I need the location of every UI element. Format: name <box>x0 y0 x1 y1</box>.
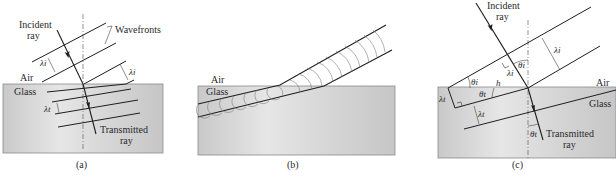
label-ray-a: ray <box>27 30 40 41</box>
label-lambda-t-a: λt <box>43 104 51 114</box>
label-transmitted-c: Transmitted <box>546 128 594 139</box>
panel-b: Air Glass (b) <box>196 25 395 171</box>
theta-i-arc-surface <box>468 77 470 88</box>
label-transmitted-a: Transmitted <box>100 124 148 135</box>
label-glass-c: Glass <box>589 98 611 109</box>
incident-ray-a <box>57 30 83 84</box>
panel-a: Incident ray Wavefronts Air Glass λi λi … <box>3 14 163 171</box>
label-incident-c: Incident <box>487 0 520 11</box>
label-air-c: Air <box>596 77 610 88</box>
lambda-i-dim-a-right <box>120 64 128 80</box>
label-transmitted-ray-a: ray <box>120 135 133 146</box>
label-wavefronts: Wavefronts <box>115 24 161 35</box>
label-lambda-i-a-right: λi <box>128 67 136 77</box>
incident-arrow-a <box>65 51 70 58</box>
wavefront-c-lower <box>528 46 600 88</box>
wavefront-a-4 <box>126 80 134 84</box>
label-lambda-i-c-top: λi <box>553 45 561 55</box>
lambda-i-dim-a <box>48 58 55 72</box>
caption-b: (b) <box>287 159 299 171</box>
label-air-a: Air <box>20 72 34 83</box>
wavefronts-leader <box>105 26 112 44</box>
label-h: h <box>496 78 501 88</box>
label-glass-b: Glass <box>206 86 228 97</box>
label-theta-t-surface: θt <box>479 89 486 99</box>
label-theta-t-bottom: θt <box>530 129 537 139</box>
wavefront-c-upper <box>448 7 591 88</box>
label-transmitted-ray-c: ray <box>563 139 576 150</box>
label-air-b: Air <box>211 74 225 85</box>
label-glass-a: Glass <box>14 86 36 97</box>
label-lambda-t-c-mid: λt <box>477 109 485 119</box>
label-incident-a: Incident <box>19 19 52 30</box>
label-lambda-i-a-left: λi <box>39 58 47 68</box>
caption-a: (a) <box>76 159 87 171</box>
caption-c: (c) <box>512 159 523 171</box>
label-lambda-t-c-left: λt <box>438 94 446 104</box>
label-theta-i-surface: θi <box>471 77 478 87</box>
label-lambda-i-c-mid: λi <box>506 68 514 78</box>
refraction-figure: Incident ray Wavefronts Air Glass λi λi … <box>0 0 616 179</box>
wavefront-a-3 <box>84 61 126 84</box>
panel-c: Incident ray λi λi θi θi h θt Air Glass … <box>438 0 616 171</box>
label-ray-c: ray <box>496 11 509 22</box>
label-theta-i-normal: θi <box>518 60 525 70</box>
